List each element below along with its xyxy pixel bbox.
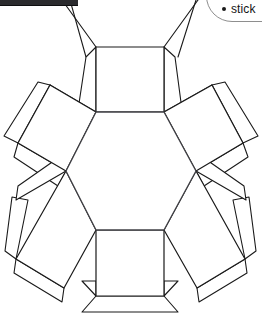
- bullet-point-icon: [222, 7, 226, 11]
- screenshot-canvas: stick: [0, 0, 262, 319]
- guide-line-upper-right: [164, 0, 198, 47]
- face-top-square: [96, 47, 164, 112]
- guide-line-upper-left: [62, 0, 96, 47]
- tab-top-right: [164, 47, 182, 112]
- instruction-callout-label: stick: [231, 2, 256, 16]
- window-toolbar-bottom-edge: [0, 0, 78, 6]
- guide-line-top-left-tab-edge: [70, 0, 86, 57]
- face-bottom-square: [96, 230, 164, 296]
- tab-bottom-chamfer-right: [164, 281, 178, 296]
- tab-bottom-trapezoid: [82, 296, 178, 312]
- guide-line-top-right-tab-edge: [178, 0, 196, 57]
- papercraft-net-diagram: [0, 0, 262, 319]
- tab-top-left: [78, 47, 96, 112]
- instruction-callout-list-item: stick: [222, 1, 262, 17]
- tab-bottom-chamfer-left: [82, 281, 96, 296]
